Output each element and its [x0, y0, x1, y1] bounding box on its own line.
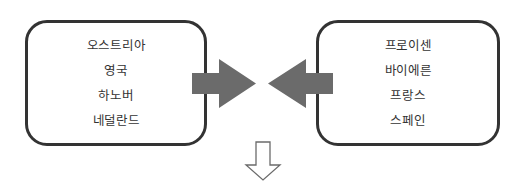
arrow-right-icon — [192, 59, 256, 108]
arrow-down-outline-icon — [246, 142, 280, 180]
arrow-left-icon — [268, 59, 333, 108]
arrows-layer — [0, 0, 526, 192]
